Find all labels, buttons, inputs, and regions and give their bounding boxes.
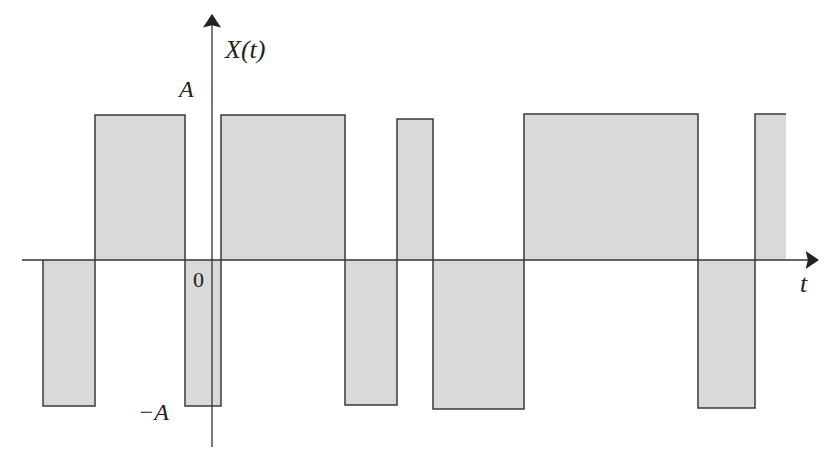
pulse-group (43, 114, 786, 409)
pulse-low (345, 260, 397, 405)
signal-plot: X(t) t 0 A −A (0, 0, 831, 457)
pulse-high (95, 115, 185, 260)
y-axis-label: X(t) (224, 35, 265, 64)
telegraph-signal-diagram: X(t) t 0 A −A (0, 0, 831, 457)
pulse-low (698, 260, 755, 408)
pulse-high (524, 114, 698, 260)
level-low-label: −A (138, 399, 169, 425)
pulse-high (221, 115, 345, 260)
pulse-high (397, 119, 433, 260)
level-high-label: A (177, 76, 194, 102)
pulse-low (433, 260, 524, 409)
origin-label: 0 (193, 267, 204, 292)
pulse-high (755, 114, 786, 260)
pulse-low (43, 260, 95, 406)
x-axis-label: t (800, 269, 808, 298)
